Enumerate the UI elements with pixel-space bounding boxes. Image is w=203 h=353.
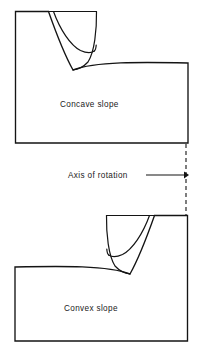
- concave-arc-terminus-tick: [94, 45, 96, 51]
- figure-canvas: Concave slope Axis of rotation Convex sl…: [0, 0, 203, 353]
- convex-block-outline: [15, 216, 188, 342]
- axis-of-rotation-label: Axis of rotation: [68, 171, 128, 180]
- concave-block-outline: [16, 12, 189, 144]
- slope-rotation-figure: Concave slope Axis of rotation Convex sl…: [0, 0, 203, 353]
- convex-outer-arc: [106, 216, 130, 275]
- concave-slope-label: Concave slope: [60, 100, 119, 109]
- concave-outer-arc: [73, 12, 97, 71]
- convex-arc-terminus-tick: [107, 249, 109, 255]
- convex-slope-panel: [15, 216, 188, 342]
- convex-slope-label: Convex slope: [64, 304, 118, 313]
- axis-of-rotation-group: Axis of rotation: [68, 144, 189, 216]
- concave-slope-panel: Concave slope: [16, 12, 189, 144]
